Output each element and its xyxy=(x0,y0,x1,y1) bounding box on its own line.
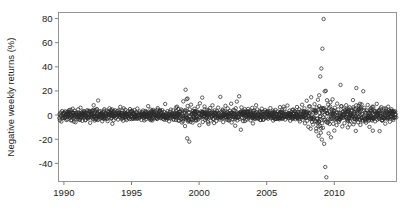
y-tick-label: 40 xyxy=(42,61,53,72)
x-tick-label: 2010 xyxy=(324,187,345,198)
y-tick-label: -40 xyxy=(39,158,53,169)
x-tick-label: 2000 xyxy=(189,187,210,198)
y-tick-label: -20 xyxy=(39,134,53,145)
y-axis-title: Negative weekly returns (%) xyxy=(5,38,16,157)
x-tick-label: 1990 xyxy=(53,187,74,198)
y-tick-label: 0 xyxy=(47,110,52,121)
y-tick-label: 20 xyxy=(42,85,53,96)
y-tick-label: 80 xyxy=(42,13,53,24)
x-tick-label: 2005 xyxy=(256,187,277,198)
x-tick-label: 1995 xyxy=(121,187,142,198)
chart-figure: -40-20020406080 19901995200020052010 Neg… xyxy=(0,0,412,219)
y-tick-label: 60 xyxy=(42,37,53,48)
scatter-plot: -40-20020406080 19901995200020052010 Neg… xyxy=(0,0,412,219)
